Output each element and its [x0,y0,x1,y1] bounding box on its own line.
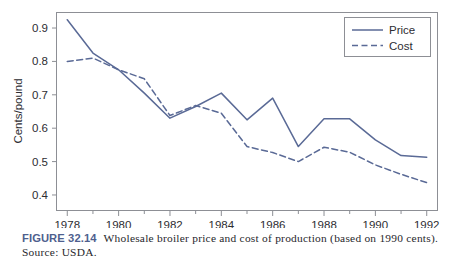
chart-area: 0.40.50.60.70.80.9 197819801982198419861… [0,0,467,228]
x-tick-label: 1990 [363,219,389,228]
x-tick-label: 1980 [106,219,132,228]
figure-number-label: FIGURE 32.14 [22,232,97,244]
x-tick-label: 1992 [414,219,440,228]
x-tick-label: 1988 [311,219,337,228]
x-tick-label: 1978 [54,219,80,228]
legend-box [345,18,431,57]
y-tick-label: 0.5 [32,156,48,168]
y-axis-label: Cents/pound [12,78,24,143]
x-tick-label: 1982 [157,219,183,228]
y-tick-label: 0.9 [32,22,48,34]
y-axis-tick-labels: 0.40.50.60.70.80.9 [32,22,49,201]
y-tick-label: 0.7 [32,89,48,101]
x-tick-label: 1986 [260,219,286,228]
y-tick-label: 0.8 [32,55,48,67]
y-tick-label: 0.4 [32,189,49,201]
caption-text: Wholesale broiler price and cost of prod… [104,232,439,244]
caption-source: Source: USDA. [22,245,454,259]
x-axis-tick-labels: 19781980198219841986198819901992 [54,219,439,228]
chart-legend: PriceCost [345,18,431,57]
y-tick-label: 0.6 [32,122,48,134]
figure-caption: FIGURE 32.14Wholesale broiler price and … [22,231,454,259]
legend-label-cost: Cost [389,40,413,52]
figure-container: 0.40.50.60.70.80.9 197819801982198419861… [0,0,467,270]
x-tick-label: 1984 [209,219,235,228]
line-chart: 0.40.50.60.70.80.9 197819801982198419861… [0,0,467,228]
legend-label-price: Price [389,24,415,36]
